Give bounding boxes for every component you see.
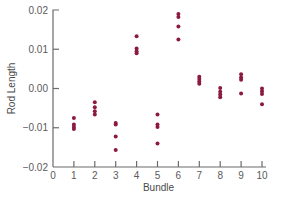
chart-axes: 0.020.010.00−0.01−0.02 012345678910 [23, 5, 268, 182]
data-point [176, 37, 180, 41]
data-point [176, 24, 180, 28]
data-point [114, 148, 118, 152]
y-tick-label: −0.02 [23, 162, 49, 173]
data-point [93, 105, 97, 109]
data-point [93, 100, 97, 104]
x-tick-label: 9 [238, 170, 244, 181]
y-tick-label: 0.00 [29, 83, 49, 94]
data-point [176, 15, 180, 19]
data-point [260, 102, 264, 106]
data-point [156, 141, 160, 145]
data-point [239, 92, 243, 96]
data-point [72, 116, 76, 120]
x-tick-label: 6 [176, 170, 182, 181]
data-point [218, 86, 222, 90]
data-point [135, 34, 139, 38]
y-tick-label: 0.01 [29, 44, 49, 55]
x-axis-title: Bundle [143, 182, 175, 193]
data-point [239, 78, 243, 82]
x-tick-label: 2 [92, 170, 98, 181]
data-point [260, 92, 264, 96]
y-tick-label: −0.01 [23, 122, 49, 133]
data-point [114, 123, 118, 127]
x-tick-label: 4 [134, 170, 140, 181]
x-tick-label: 3 [113, 170, 119, 181]
x-tick-label: 8 [217, 170, 223, 181]
data-point [72, 127, 76, 131]
data-point [218, 95, 222, 99]
scatter-chart: 0.020.010.00−0.01−0.02 012345678910 Bund… [0, 0, 281, 203]
x-tick-label: 0 [50, 170, 56, 181]
x-tick-label: 1 [71, 170, 77, 181]
x-tick-label: 10 [256, 170, 268, 181]
y-tick-label: 0.02 [29, 5, 49, 16]
x-tick-label: 5 [155, 170, 161, 181]
data-point [93, 112, 97, 116]
x-axis-ticks: 012345678910 [50, 161, 268, 181]
data-point [156, 125, 160, 129]
data-point [156, 112, 160, 116]
data-point [197, 82, 201, 86]
data-points [72, 12, 264, 152]
data-point [114, 134, 118, 138]
x-tick-label: 7 [197, 170, 203, 181]
y-axis-title: Rod Length [6, 63, 17, 115]
data-point [135, 51, 139, 55]
